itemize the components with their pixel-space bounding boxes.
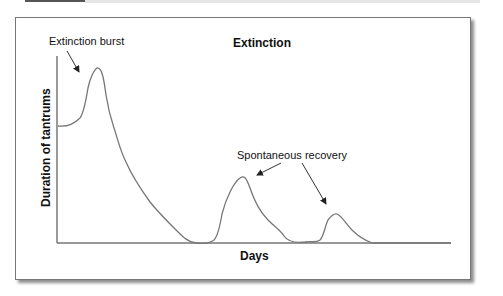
recovery-arrow-1 (257, 163, 281, 175)
annotation-spontaneous-recovery: Spontaneous recovery (237, 149, 348, 161)
y-axis-label: Duration of tantrums (39, 88, 53, 207)
extinction-chart: Extinction Extinction burst Spontaneous … (0, 0, 503, 296)
x-axis-label: Days (240, 249, 269, 263)
chart-title: Extinction (233, 36, 291, 50)
burst-arrow (67, 51, 79, 72)
annotation-extinction-burst: Extinction burst (49, 35, 124, 47)
recovery-arrow-2 (302, 163, 326, 204)
